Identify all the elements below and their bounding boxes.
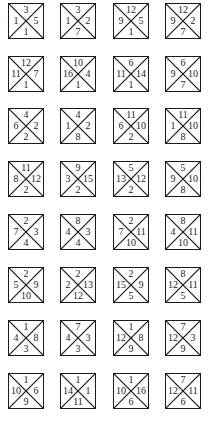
bottom-number: 1 [71,80,85,90]
top-number: 1 [124,375,138,385]
diagonal-square-r4c4: 59108 [165,161,201,197]
diagonal-square-r5c1: 2734 [8,214,44,250]
right-number: 11 [186,280,200,290]
bottom-number: 4 [19,238,33,248]
left-number: 7 [9,227,23,237]
diagonal-square-r1c2: 3127 [60,3,96,39]
right-number: 14 [134,69,148,79]
right-number: 5 [134,16,148,26]
bottom-number: 2 [124,132,138,142]
left-number: 12 [114,333,128,343]
top-number: 7 [176,322,190,332]
top-number: 10 [71,58,85,68]
top-number: 5 [176,163,190,173]
bottom-number: 1 [124,80,138,90]
right-number: 3 [186,333,200,343]
top-number: 8 [176,216,190,226]
left-number: 12 [166,386,180,396]
right-number: 6 [29,386,43,396]
left-number: 4 [61,227,75,237]
left-number: 1 [9,16,23,26]
left-number: 4 [166,227,180,237]
bottom-number: 3 [71,344,85,354]
bottom-number: 8 [176,185,190,195]
left-number: 14 [61,386,75,396]
left-number: 1 [166,121,180,131]
right-number: 5 [29,16,43,26]
top-number: 8 [71,216,85,226]
top-number: 3 [19,5,33,15]
right-number: 8 [134,333,148,343]
top-number: 11 [176,110,190,120]
top-number: 7 [71,322,85,332]
right-number: 10 [186,69,200,79]
top-number: 6 [176,58,190,68]
left-number: 9 [114,16,128,26]
bottom-number: 5 [124,291,138,301]
right-number: 10 [186,121,200,131]
top-number: 12 [19,58,33,68]
diagonal-square-r6c4: 812115 [165,267,201,303]
right-number: 10 [186,174,200,184]
left-number: 9 [166,174,180,184]
diagonal-square-r7c1: 1483 [8,320,44,356]
bottom-number: 7 [176,80,190,90]
top-number: 11 [19,163,33,173]
bottom-number: 8 [176,132,190,142]
bottom-number: 7 [176,27,190,37]
bottom-number: 9 [124,344,138,354]
left-number: 16 [61,69,75,79]
diagonal-square-r2c1: 121171 [8,56,44,92]
bottom-number: 7 [71,27,85,37]
diagonal-square-r4c3: 513122 [113,161,149,197]
diagonal-square-r8c3: 110166 [113,373,149,409]
diagonal-square-r7c3: 11289 [113,320,149,356]
bottom-number: 10 [124,238,138,248]
diagonal-square-r2c3: 611141 [113,56,149,92]
bottom-number: 1 [124,27,138,37]
left-number: 13 [114,174,128,184]
left-number: 3 [61,174,75,184]
left-number: 1 [61,16,75,26]
right-number: 11 [186,386,200,396]
left-number: 2 [61,280,75,290]
left-number: 4 [9,333,23,343]
diagonal-square-r1c3: 12951 [113,3,149,39]
top-number: 5 [124,163,138,173]
left-number: 4 [61,333,75,343]
top-number: 8 [176,269,190,279]
right-number: 2 [29,121,43,131]
diagonal-square-r7c2: 7433 [60,320,96,356]
right-number: 3 [81,333,95,343]
bottom-number: 12 [71,291,85,301]
right-number: 9 [134,280,148,290]
right-number: 16 [134,386,148,396]
left-number: 15 [114,280,128,290]
right-number: 11 [186,227,200,237]
right-number: 2 [81,121,95,131]
left-number: 10 [9,386,23,396]
bottom-number: 9 [176,344,190,354]
right-number: 13 [81,280,95,290]
bottom-number: 2 [124,185,138,195]
right-number: 12 [29,174,43,184]
top-number: 1 [124,322,138,332]
right-number: 8 [29,333,43,343]
bottom-number: 1 [19,80,33,90]
top-number: 12 [124,5,138,15]
top-number: 12 [176,5,190,15]
right-number: 10 [134,121,148,131]
top-number: 2 [124,216,138,226]
top-number: 2 [19,216,33,226]
top-number: 11 [124,110,138,120]
left-number: 5 [9,280,23,290]
diagonal-square-r1c1: 3151 [8,3,44,39]
right-number: 9 [29,280,43,290]
left-number: 9 [166,69,180,79]
right-number: 3 [29,227,43,237]
left-number: 11 [9,69,23,79]
diagonal-square-r8c1: 11069 [8,373,44,409]
left-number: 11 [114,69,128,79]
diagonal-square-r8c2: 114111 [60,373,96,409]
bottom-number: 2 [71,185,85,195]
